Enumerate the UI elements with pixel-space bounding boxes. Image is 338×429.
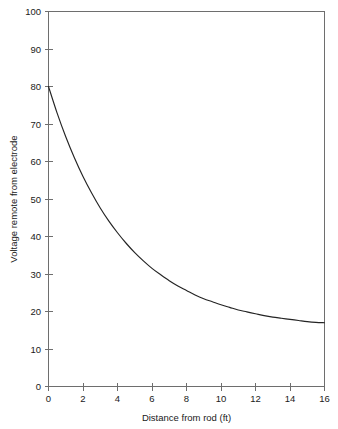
y-tick-label: 30 bbox=[30, 269, 41, 280]
y-tick-label: 0 bbox=[36, 381, 41, 392]
y-tick-label: 100 bbox=[25, 6, 41, 17]
y-tick-label: 40 bbox=[30, 231, 41, 242]
x-tick-label: 4 bbox=[115, 393, 120, 404]
y-tick-label: 60 bbox=[30, 156, 41, 167]
x-tick-label: 14 bbox=[285, 393, 296, 404]
y-axis-title: Voltage remote from electrode bbox=[8, 135, 19, 262]
y-tick-label: 90 bbox=[30, 44, 41, 55]
x-tick-label: 16 bbox=[319, 393, 330, 404]
y-tick-label: 80 bbox=[30, 81, 41, 92]
x-tick-label: 12 bbox=[250, 393, 261, 404]
x-tick-label: 6 bbox=[149, 393, 154, 404]
x-axis-title: Distance from rod (ft) bbox=[142, 412, 231, 423]
chart-background bbox=[0, 0, 338, 429]
y-tick-label: 70 bbox=[30, 119, 41, 130]
y-tick-label: 20 bbox=[30, 306, 41, 317]
x-tick-label: 8 bbox=[184, 393, 189, 404]
x-tick-label: 2 bbox=[80, 393, 85, 404]
x-tick-label: 10 bbox=[216, 393, 227, 404]
voltage-vs-distance-chart: 100 90 80 70 60 50 40 30 20 10 0 0 2 4 6… bbox=[0, 0, 338, 429]
x-tick-label: 0 bbox=[46, 393, 51, 404]
y-tick-label: 10 bbox=[30, 344, 41, 355]
y-tick-label: 50 bbox=[30, 194, 41, 205]
